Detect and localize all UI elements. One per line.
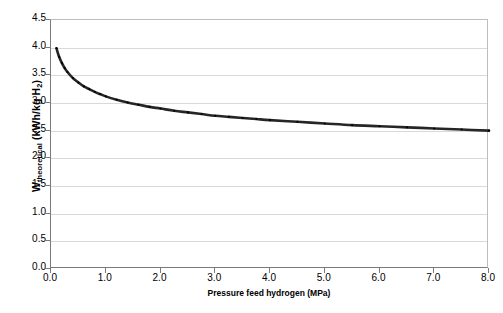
x-axis-tick-label: 0.0 [30,272,70,283]
data-point-marker [351,124,353,126]
data-point-marker [324,122,326,124]
x-axis-tick-label: 6.0 [359,272,399,283]
y-axis-tick-label: 3.0 [12,95,46,106]
data-point-marker [488,130,490,132]
data-point-marker [149,106,151,108]
data-point-marker [105,95,107,97]
data-point-marker [187,111,189,113]
data-point-marker [433,127,435,129]
data-point-marker [378,125,380,127]
y-axis-tick-label: 2.0 [12,150,46,161]
y-axis-title-unit-subscript: 2 [35,84,44,88]
x-axis-tick-label: 2.0 [140,272,180,283]
data-point-marker [61,62,63,64]
data-point-marker [269,119,271,121]
data-series-line [56,48,489,130]
data-point-marker [127,101,129,103]
y-axis-tick-label: 4.5 [12,12,46,23]
data-point-marker [138,104,140,106]
data-point-marker [159,107,161,109]
x-axis-tick-label: 8.0 [468,272,503,283]
data-series-layer [51,20,489,269]
data-point-marker [201,113,203,115]
data-point-marker [406,126,408,128]
data-point-marker [66,71,68,73]
x-axis-tick-label: 4.0 [249,272,289,283]
y-axis-tick-label: 0.5 [12,233,46,244]
y-axis-tick-label: 0.0 [12,261,46,272]
y-axis-tick-label: 1.5 [12,178,46,189]
data-point-marker [242,117,244,119]
data-point-marker [83,85,85,87]
x-axis-tick-label: 7.0 [413,272,453,283]
x-axis-title: Pressure feed hydrogen (MPa) [50,288,488,298]
data-point-marker [461,129,463,131]
data-point-marker [94,91,96,93]
y-axis-title-unit-end: ) [30,80,42,84]
y-axis-tick-label: 1.0 [12,206,46,217]
data-point-marker [99,93,101,95]
data-point-marker [72,77,74,79]
y-axis-tick-label: 4.0 [12,40,46,51]
data-point-marker [255,118,257,120]
y-axis-tick-label: 3.5 [12,67,46,78]
data-point-marker [116,99,118,101]
x-axis-tick-label: 3.0 [194,272,234,283]
data-point-marker [88,88,90,90]
plot-area [50,19,488,268]
x-axis-tick-label: 5.0 [304,272,344,283]
chart-container: Wtheoretical (kWh/kg H2) Pressure feed h… [0,0,503,313]
data-point-marker [173,110,175,112]
data-point-marker [296,121,298,123]
data-point-marker [58,56,60,58]
data-point-marker [228,116,230,118]
data-point-marker [214,115,216,117]
y-axis-title-subscript: theoretical [35,143,44,182]
data-point-marker [77,81,79,83]
y-axis-tick-label: 2.5 [12,123,46,134]
data-point-marker [64,67,66,69]
data-point-marker [55,47,57,49]
x-axis-tick-label: 1.0 [85,272,125,283]
